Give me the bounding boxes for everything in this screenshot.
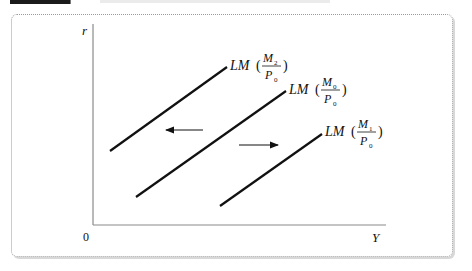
- svg-text:LM: LM: [288, 82, 310, 97]
- svg-text:(: (: [315, 82, 320, 98]
- lm-curve-m2: [110, 67, 227, 151]
- label-lm-m0: LM ( M 0 P 0 ): [288, 75, 347, 108]
- lm-curve-m0: [136, 91, 286, 197]
- x-axis-label: Y: [372, 230, 381, 245]
- origin-label: 0: [83, 230, 89, 244]
- svg-text:(: (: [256, 58, 261, 74]
- lm-diagram: r Y 0 LM ( M 2 P 0 ) LM ( M 0 P 0 ) LM (…: [0, 0, 472, 271]
- svg-text:LM: LM: [229, 58, 251, 73]
- y-axis-label: r: [82, 23, 88, 38]
- svg-text:P: P: [264, 68, 273, 82]
- svg-text:M: M: [321, 75, 333, 89]
- svg-text:P: P: [323, 92, 332, 106]
- svg-text:P: P: [359, 134, 368, 148]
- svg-text:0: 0: [369, 142, 373, 150]
- label-lm-m1: LM ( M 1 P 0 ): [324, 117, 383, 150]
- svg-text:): ): [283, 58, 288, 74]
- svg-text:): ): [342, 82, 347, 98]
- svg-text:0: 0: [274, 76, 278, 84]
- svg-text:): ): [378, 124, 383, 140]
- label-lm-m2: LM ( M 2 P 0 ): [229, 51, 288, 84]
- svg-text:M: M: [262, 51, 274, 65]
- svg-text:0: 0: [333, 100, 337, 108]
- svg-text:M: M: [357, 117, 369, 131]
- svg-text:(: (: [351, 124, 356, 140]
- svg-text:LM: LM: [324, 124, 346, 139]
